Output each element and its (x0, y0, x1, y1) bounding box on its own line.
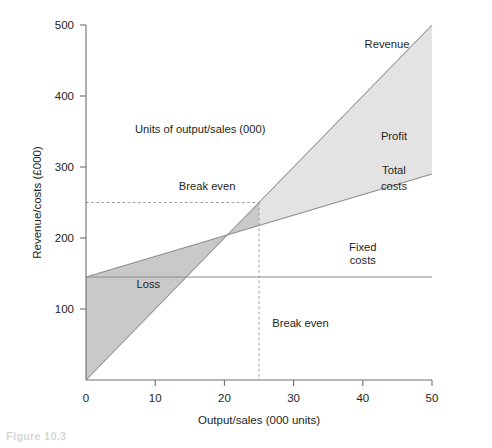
y-tick-label: 400 (55, 90, 74, 102)
x-axis-ticks (155, 380, 432, 386)
region-profit-group (259, 25, 432, 226)
revenue-line (86, 25, 432, 380)
total-costs-label-1: Total (382, 164, 406, 176)
y-tick-label: 300 (55, 161, 74, 173)
profit-region (259, 25, 432, 226)
x-axis-title: Output/sales (000 units) (198, 414, 320, 426)
x-tick-label: 0 (83, 392, 89, 404)
series-lines (86, 25, 432, 380)
fixed-costs-label-2: costs (350, 254, 377, 266)
fixed-costs-label-1: Fixed (349, 241, 376, 253)
x-tick-label: 10 (149, 392, 162, 404)
y-axis-tick-labels: 100200300400500 (55, 19, 74, 315)
break-even-chart-figure: 100200300400500 01020304050 Revenue/cost… (0, 0, 492, 448)
x-axis-tick-labels: 01020304050 (83, 392, 439, 404)
y-tick-label: 500 (55, 19, 74, 31)
loss-label: Loss (136, 278, 160, 290)
revenue-label: Revenue (365, 38, 410, 50)
units-note: Units of output/sales (000) (135, 123, 266, 135)
break-even-h-label: Break even (179, 180, 236, 192)
total-costs-label-2: costs (381, 180, 408, 192)
x-tick-label: 50 (426, 392, 439, 404)
figure-caption: Figure 10.3 (6, 430, 66, 442)
x-tick-label: 30 (287, 392, 300, 404)
x-tick-label: 40 (356, 392, 369, 404)
y-axis-ticks (80, 25, 86, 309)
y-axis-title: Revenue/costs (£000) (31, 146, 43, 259)
chart-canvas: 100200300400500 01020304050 Revenue/cost… (0, 0, 492, 448)
y-tick-label: 100 (55, 303, 74, 315)
profit-label: Profit (381, 130, 408, 142)
break-even-v-label: Break even (272, 317, 329, 329)
x-tick-label: 20 (218, 392, 231, 404)
y-tick-label: 200 (55, 232, 74, 244)
